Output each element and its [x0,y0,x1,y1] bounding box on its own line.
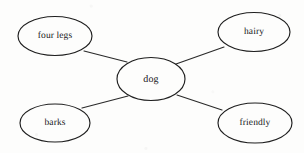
node-label-dog: dog [143,74,158,85]
edge-dog-hairy [176,47,224,64]
edge-dog-four-legs [84,51,127,62]
node-label-hairy: hairy [244,27,264,37]
diagram-canvas: four legs hairy dog barks friendly [0,0,304,153]
node-label-friendly: friendly [240,118,271,128]
edge-dog-barks [82,96,128,108]
edge-dog-friendly [177,95,222,110]
node-label-four-legs: four legs [38,31,72,41]
node-label-barks: barks [44,118,65,128]
